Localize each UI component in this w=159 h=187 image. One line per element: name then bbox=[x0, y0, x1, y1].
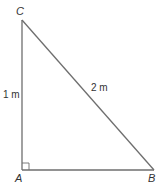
triangle-diagram: C A B 1 m 2 m bbox=[0, 0, 159, 187]
side-label-ac: 1 m bbox=[3, 89, 20, 100]
vertex-label-b: B bbox=[148, 172, 155, 184]
side-label-cb: 2 m bbox=[91, 82, 108, 93]
right-angle-marker bbox=[22, 163, 29, 170]
side-cb bbox=[22, 20, 154, 170]
vertex-label-a: A bbox=[14, 172, 22, 184]
vertex-label-c: C bbox=[16, 5, 24, 17]
